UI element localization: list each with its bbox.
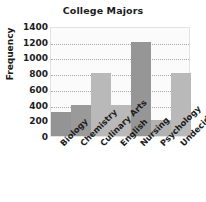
y-tick-label: 400: [2, 101, 48, 111]
x-axis-tick-labels: BiologyChemistryCulinary ArtsEnglishNurs…: [50, 137, 190, 202]
y-tick-label: 1000: [2, 53, 48, 63]
chart-screenshot: College Majors Frequency 020040060080010…: [0, 0, 206, 202]
y-tick-label: 200: [2, 116, 48, 126]
y-tick-label: 1400: [2, 22, 48, 32]
y-tick-label: 1200: [2, 38, 48, 48]
y-tick-label: 0: [2, 132, 48, 142]
chart-title: College Majors: [0, 5, 206, 16]
y-axis-tick-labels: 0200400600800100012001400: [0, 27, 48, 137]
y-tick-label: 800: [2, 69, 48, 79]
y-tick-label: 600: [2, 85, 48, 95]
